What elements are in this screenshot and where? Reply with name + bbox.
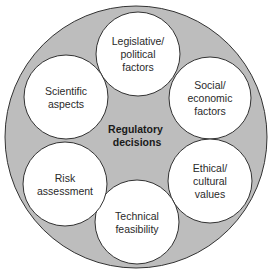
factor-node-ethical: Ethical/culturalvalues: [168, 139, 252, 223]
center-label-line-1: Regulatory: [108, 123, 163, 135]
factor-label-line: cultural: [193, 175, 227, 187]
factor-label-line: factors: [194, 105, 226, 117]
factor-label-line: political: [120, 48, 155, 60]
factor-label-line: Risk: [55, 172, 76, 184]
factor-label-line: Scientific: [45, 85, 87, 97]
factor-label-line: Social/: [194, 79, 226, 91]
factor-node-legislative: Legislative/politicalfactors: [96, 12, 180, 96]
factor-label-line: assessment: [37, 185, 93, 197]
factor-label-line: economic: [188, 92, 233, 104]
factor-node-risk: Riskassessment: [23, 142, 107, 226]
factor-node-technical: Technicalfeasibility: [95, 180, 179, 264]
factor-node-scientific: Scientificaspects: [24, 55, 108, 139]
factor-label-line: Technical: [115, 210, 159, 222]
center-label: Regulatory decisions: [108, 123, 166, 148]
factor-label-line: aspects: [48, 98, 84, 110]
factor-label-line: Ethical/: [193, 162, 228, 174]
center-label-line-2: decisions: [113, 136, 162, 148]
factor-label-line: Legislative/: [112, 35, 165, 47]
factor-label: Technicalfeasibility: [115, 210, 159, 235]
regulatory-decisions-diagram: Legislative/politicalfactorsSocial/econo…: [0, 0, 275, 278]
factor-label-line: values: [195, 188, 225, 200]
factor-label: Ethical/culturalvalues: [193, 162, 228, 200]
factor-label-line: feasibility: [115, 223, 159, 235]
factor-label: Scientificaspects: [45, 85, 87, 110]
factor-node-social: Social/economicfactors: [169, 57, 251, 139]
factor-label-line: factors: [122, 61, 154, 73]
factor-label: Social/economicfactors: [188, 79, 233, 117]
